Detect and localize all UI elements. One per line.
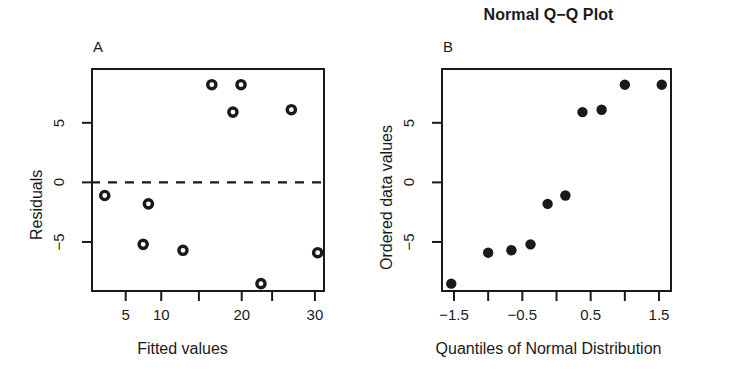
panel-b-y-axis-label: Ordered data values [378, 125, 396, 270]
data-point [144, 200, 152, 208]
data-point [237, 81, 245, 89]
data-point [229, 108, 237, 116]
data-point [577, 107, 587, 117]
y-tick-label: −5 [50, 227, 68, 257]
y-tick-label: 5 [400, 108, 418, 138]
data-point [483, 247, 493, 257]
panel-b-normal-qq-plot: Normal Q−Q Plot B Quantiles of Normal Di… [366, 0, 731, 384]
data-point [596, 105, 606, 115]
x-tick-label: 10 [131, 306, 191, 323]
data-point [525, 239, 535, 249]
data-point [257, 280, 265, 288]
data-point [287, 106, 295, 114]
figure-two-panel-diagnostic-plots: A Fitted values Residuals 5102030−505 No… [0, 0, 731, 384]
data-point [446, 278, 456, 288]
y-tick-label: −5 [400, 227, 418, 257]
panel-a-residuals-vs-fitted: A Fitted values Residuals 5102030−505 [0, 0, 365, 384]
data-point [560, 190, 570, 200]
x-tick-label: 1.5 [629, 306, 689, 323]
y-tick-label: 0 [50, 167, 68, 197]
x-tick-label: 20 [212, 306, 272, 323]
x-tick-label: 0.5 [561, 306, 621, 323]
data-point [179, 246, 187, 254]
panel-b-x-axis-label: Quantiles of Normal Distribution [366, 340, 731, 358]
data-point [506, 245, 516, 255]
data-point [314, 249, 322, 257]
x-tick-label: −0.5 [492, 306, 552, 323]
panel-a-x-axis-label: Fitted values [0, 340, 365, 358]
y-tick-label: 5 [50, 108, 68, 138]
panel-a-y-axis-label: Residuals [28, 170, 46, 240]
y-tick-label: 0 [400, 167, 418, 197]
data-point [542, 199, 552, 209]
x-tick-label: 30 [285, 306, 345, 323]
data-point [139, 240, 147, 248]
x-tick-label: −1.5 [424, 306, 484, 323]
data-point [101, 191, 109, 199]
data-point [620, 79, 630, 89]
panel-b-data-layer [366, 0, 731, 384]
data-point [208, 81, 216, 89]
data-point [657, 79, 667, 89]
